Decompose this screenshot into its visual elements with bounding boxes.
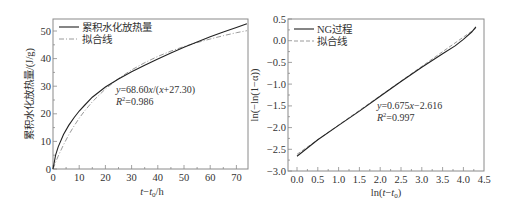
right-xtick-1.5: 1.5 <box>353 174 366 185</box>
left-xtick-30: 30 <box>126 172 137 183</box>
right-xtick-3.0: 3.0 <box>415 174 428 185</box>
right-y-ticks <box>288 19 292 171</box>
right-xtick-1.0: 1.0 <box>332 174 345 185</box>
left-ytick-40: 40 <box>41 53 52 64</box>
right-legend-item-2: 拟合线 <box>317 35 348 47</box>
left-ytick-20: 20 <box>41 108 52 119</box>
left-legend: 累积水化放热量 拟合线 <box>59 21 153 46</box>
right-xtick-4.0: 4.0 <box>457 174 470 185</box>
figure: 0 10 20 30 40 50 60 70 0 10 20 30 40 50 … <box>0 0 516 206</box>
left-legend-item-1: 累积水化放热量 <box>82 21 153 33</box>
right-chart: 0.0 0.5 1.0 1.5 2.0 2.5 3.0 3.5 4.0 4.5 … <box>249 14 491 201</box>
left-ytick-30: 30 <box>41 81 52 92</box>
right-xtick-3.5: 3.5 <box>436 174 449 185</box>
right-legend-item-1: NG过程 <box>317 23 353 35</box>
right-ytick--3.0: −3.0 <box>267 166 286 177</box>
left-equation: y=68.60x/(x+27.30) <box>115 84 195 96</box>
left-xtick-50: 50 <box>179 172 190 183</box>
right-r-squared: R2=0.997 <box>376 111 415 123</box>
left-xtick-0: 0 <box>50 172 55 183</box>
left-xtick-60: 60 <box>205 172 216 183</box>
right-legend: NG过程 拟合线 <box>294 23 353 48</box>
right-ytick--2.0: −2.0 <box>267 122 286 133</box>
right-xtick-2.5: 2.5 <box>394 174 407 185</box>
right-xtick-0.0: 0.0 <box>290 174 303 185</box>
right-ytick--1.5: −1.5 <box>267 100 286 111</box>
left-ytick-0: 0 <box>46 164 51 175</box>
right-xtick-2.0: 2.0 <box>374 174 387 185</box>
left-x-axis-title: t−t0/h <box>140 186 164 199</box>
left-xtick-40: 40 <box>153 172 164 183</box>
right-xtick-0.5: 0.5 <box>311 174 324 185</box>
left-ytick-50: 50 <box>41 26 52 37</box>
left-xtick-70: 70 <box>231 172 242 183</box>
right-ytick--1.0: −1.0 <box>267 79 286 90</box>
right-ytick-0.5: 0.5 <box>273 14 286 25</box>
right-y-axis-title: ln(−ln(1−α)) <box>249 68 261 121</box>
left-y-ticks <box>53 31 57 169</box>
left-x-ticks <box>53 165 236 169</box>
left-legend-item-2: 拟合线 <box>82 33 113 45</box>
right-ytick--0.5: −0.5 <box>267 57 286 68</box>
left-y-axis-title: 累积水化放热量/(J/g) <box>23 47 36 140</box>
right-x-axis-title: ln(t−t0) <box>371 187 402 200</box>
left-ytick-10: 10 <box>41 136 52 147</box>
left-xtick-20: 20 <box>100 172 111 183</box>
right-ytick-0.0: 0.0 <box>273 35 286 46</box>
right-equation: y=0.675x−2.616 <box>376 100 442 111</box>
right-x-ticks <box>297 167 474 171</box>
right-xtick-4.5: 4.5 <box>478 174 491 185</box>
left-xtick-10: 10 <box>74 172 85 183</box>
left-chart: 0 10 20 30 40 50 60 70 0 10 20 30 40 50 … <box>23 19 248 199</box>
left-r-squared: R2=0.986 <box>115 95 154 107</box>
right-ytick--2.5: −2.5 <box>267 144 286 155</box>
